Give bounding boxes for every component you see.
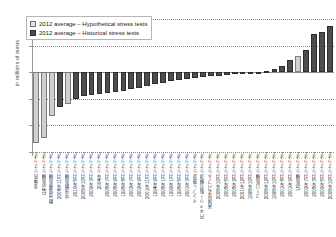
x-tick-mark (274, 152, 275, 154)
bar (168, 72, 174, 81)
bar (105, 72, 111, 93)
x-axis-label: 2002年9月シナリオ (137, 154, 142, 197)
legend-swatch-historical-icon (30, 30, 36, 36)
x-axis-label: 2001年8月シナリオ (280, 154, 285, 197)
bar (184, 72, 190, 79)
bar (41, 72, 47, 138)
x-tick-mark (314, 152, 315, 154)
x-axis-label: 2008年2月シナリオ (232, 154, 237, 197)
bar (152, 72, 158, 84)
bar (121, 72, 127, 91)
x-axis-label: 1994年9月シナリオ (153, 154, 158, 197)
x-tick-mark (235, 152, 236, 154)
x-tick-mark (76, 152, 77, 154)
bar (65, 72, 71, 104)
x-axis-label: 1998年8月シナリオ (121, 154, 126, 197)
x-axis-label: 2010年5月シナリオ (73, 154, 78, 197)
x-tick-mark (259, 152, 260, 154)
bar (248, 72, 254, 74)
legend-label-hypothetical: 2012 average – Hypothetical stress tests (39, 21, 147, 27)
x-axis-label: 1998年10月シナリオ (248, 154, 253, 199)
x-tick-mark (251, 152, 252, 154)
x-axis-label: 2001年11月シナリオ (145, 154, 150, 199)
x-tick-mark (44, 152, 45, 154)
bar (33, 72, 39, 142)
bar (136, 72, 142, 88)
x-tick-mark (195, 152, 196, 154)
bar (208, 72, 214, 76)
x-axis-label: 2001年9月シナリオ (288, 154, 293, 197)
bar (176, 72, 182, 80)
x-tick-mark (68, 152, 69, 154)
x-axis-label: 米国住宅バブルシナリオ (208, 154, 213, 209)
x-axis-label: 2002年7月シナリオ (304, 154, 309, 197)
x-tick-mark (36, 152, 37, 154)
x-tick-mark (60, 152, 61, 154)
x-tick-mark (266, 152, 267, 154)
x-tick-mark (115, 152, 116, 154)
bar (272, 69, 278, 72)
bar (303, 50, 309, 73)
x-tick-mark (123, 152, 124, 154)
bar (232, 72, 238, 74)
x-axis-label: 全体的シナリオ (34, 154, 39, 189)
x-axis-label: 2008年1月シナリオ (161, 154, 166, 197)
bar (224, 72, 230, 75)
x-axis-label: 2008年5月シナリオ (224, 154, 229, 197)
x-axis-label: 2008年11月シナリオ (57, 154, 62, 199)
x-tick-mark (100, 152, 101, 154)
x-tick-mark (298, 152, 299, 154)
bar (144, 72, 150, 86)
legend-label-historical: 2012 average – Historical stress tests (39, 30, 139, 36)
x-axis-label: 2009年3月シナリオ (89, 154, 94, 197)
x-tick-mark (92, 152, 93, 154)
bar (200, 72, 206, 77)
gridline--600 (32, 152, 334, 153)
bar (319, 32, 325, 72)
gridline--400 (32, 125, 334, 126)
x-axis-label: 2008年9月シナリオ (113, 154, 118, 197)
x-tick-mark (219, 152, 220, 154)
x-axis-label: 2008年7月シナリオ (105, 154, 110, 197)
bar (264, 71, 270, 73)
x-tick-mark (290, 152, 291, 154)
x-axis-label: 2004年シナリオ (97, 154, 102, 189)
x-axis-label: 中央欧危機シナリオ (65, 154, 70, 199)
x-tick-mark (322, 152, 323, 154)
x-axis-labels: 全体的シナリオGIPS危機シナリオ欧州債務危機シナリオ2008年11月シナリオ中… (32, 154, 334, 237)
x-axis-label: 2008年12月シナリオ (264, 154, 269, 199)
bar (113, 72, 119, 92)
x-tick-mark (211, 152, 212, 154)
x-axis-label: 2008年10月シナリオ (81, 154, 86, 199)
x-tick-mark (282, 152, 283, 154)
bar (73, 72, 79, 99)
bar (89, 72, 95, 95)
x-tick-mark (139, 152, 140, 154)
x-axis-label: 欧州債務危機シナリオ (49, 154, 54, 204)
x-axis-label: 2003年7月シナリオ (129, 154, 134, 197)
x-axis-label: 1998年5月シナリオ (177, 154, 182, 197)
x-axis-label: 1998年10月シナリオ (272, 154, 277, 199)
x-tick-mark (306, 152, 307, 154)
bar (295, 56, 301, 72)
x-tick-mark (84, 152, 85, 154)
bar (160, 72, 166, 83)
bar (240, 72, 246, 74)
x-axis-label: 2001年12月シナリオ (240, 154, 245, 199)
bar (57, 72, 63, 107)
bar (311, 34, 317, 73)
bar (256, 72, 262, 74)
x-axis-label: US危機シナリオ (296, 154, 301, 190)
bar (81, 72, 87, 96)
gridline-200 (32, 46, 334, 47)
x-tick-mark (171, 152, 172, 154)
bar (287, 60, 293, 73)
chart-legend: 2012 average – Hypothetical stress tests… (26, 16, 152, 40)
x-axis-label: インフレ懸念シナリオ (193, 154, 198, 204)
x-axis-label: ユーロ危機シナリオ (256, 154, 261, 199)
x-axis-label: 2008年10月シナリオ (328, 154, 333, 199)
bar (192, 72, 198, 78)
x-axis-label: GIPS危機シナリオ (42, 154, 47, 195)
x-axis-label: 1999年1月シナリオ (169, 154, 174, 197)
x-tick-mark (227, 152, 228, 154)
